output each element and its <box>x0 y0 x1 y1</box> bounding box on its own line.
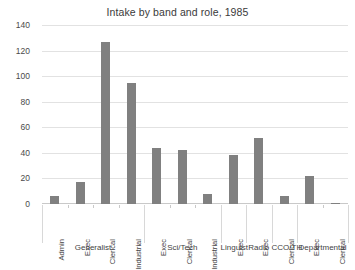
y-axis-tick-label: 60 <box>0 122 30 132</box>
x-axis-group-separator <box>221 205 222 243</box>
x-axis-group-label: Sci/Tech <box>144 243 221 252</box>
y-axis-tick-label: 140 <box>0 20 30 30</box>
x-axis-category-labels: AdminExecClericalIndustrialExecClericalI… <box>42 205 348 241</box>
x-axis-tick-mark <box>195 205 196 208</box>
bar[interactable] <box>331 203 340 204</box>
y-axis-tick-label: 0 <box>0 199 30 209</box>
bar[interactable] <box>101 42 110 204</box>
y-axis-tick-label: 40 <box>0 148 30 158</box>
x-axis-group-separator <box>144 205 145 243</box>
x-axis-tick-mark <box>119 205 120 208</box>
bar[interactable] <box>50 196 59 204</box>
bar[interactable] <box>127 83 136 204</box>
x-axis-group-separator <box>348 205 349 243</box>
x-axis-group-separator <box>246 205 247 243</box>
bar[interactable] <box>229 155 238 204</box>
y-axis-tick-label: 120 <box>0 46 30 56</box>
x-axis-group-separator <box>272 205 273 243</box>
bar[interactable] <box>203 194 212 204</box>
x-axis-group-separator <box>42 205 43 243</box>
y-axis-tick-label: 80 <box>0 97 30 107</box>
bar[interactable] <box>76 182 85 204</box>
x-axis-group-labels: GeneralistSci/TechLinguistRadioCCO/THDep… <box>42 243 348 259</box>
x-axis-group-label: Linguist <box>221 243 247 252</box>
x-axis-group-label: Departmental <box>297 243 348 252</box>
x-axis-group-label: CCO/TH <box>272 243 298 252</box>
x-axis-tick-mark <box>93 205 94 208</box>
bar[interactable] <box>178 150 187 204</box>
x-axis-tick-mark <box>68 205 69 208</box>
x-axis-tick-mark <box>323 205 324 208</box>
x-axis-group-label: Radio <box>246 243 272 252</box>
bar[interactable] <box>254 138 263 204</box>
bar-series <box>42 25 348 204</box>
bar[interactable] <box>305 176 314 204</box>
x-axis-group-separator <box>297 205 298 243</box>
chart-title: Intake by band and role, 1985 <box>0 6 355 18</box>
y-axis-tick-label: 100 <box>0 71 30 81</box>
x-axis-group-label: Generalist <box>42 243 144 252</box>
y-axis-tick-label: 20 <box>0 173 30 183</box>
x-axis-tick-mark <box>170 205 171 208</box>
bar[interactable] <box>152 148 161 204</box>
bar[interactable] <box>280 196 289 204</box>
